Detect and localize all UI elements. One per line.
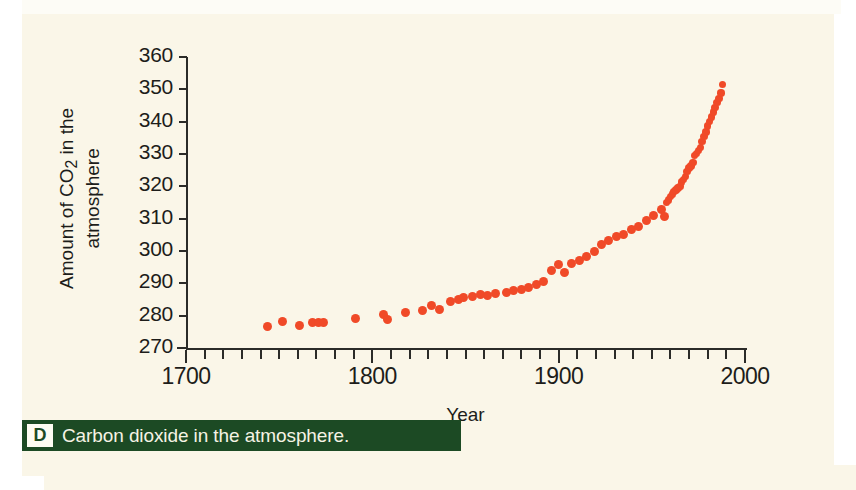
x-tick-label-1700: 1700 [146, 363, 226, 390]
x-tick-1820 [409, 350, 411, 359]
x-tick-label-2000: 2000 [705, 363, 785, 390]
data-point [634, 222, 643, 231]
data-point [401, 308, 410, 317]
data-point [295, 321, 304, 330]
y-tick-label-350: 350 [103, 75, 173, 99]
caption-text: Carbon dioxide in the atmosphere. [62, 425, 349, 447]
y-axis-title-line-2: atmosphere [82, 148, 103, 248]
x-tick-1840 [446, 350, 448, 359]
x-tick-2000 [744, 350, 746, 363]
x-tick-1880 [520, 350, 522, 359]
x-tick-1810 [390, 350, 392, 359]
y-tick-270 [177, 347, 187, 349]
x-tick-1940 [632, 350, 634, 359]
data-point [435, 305, 444, 314]
y-tick-300 [179, 250, 187, 252]
y-tick-label-310: 310 [103, 205, 173, 229]
caption-letter-badge: D [27, 424, 53, 447]
x-tick-1970 [688, 350, 690, 359]
y-tick-310 [179, 218, 187, 220]
data-point [418, 306, 427, 315]
y-tick-label-270: 270 [103, 334, 173, 358]
y-tick-label-290: 290 [103, 269, 173, 293]
data-point [278, 317, 287, 326]
y-tick-label-300: 300 [103, 237, 173, 261]
co2-scatter-chart: Amount of CO2 in the atmosphere 27028029… [22, 14, 834, 414]
y-tick-360 [179, 56, 187, 58]
figure-bottom-strip [44, 465, 856, 490]
x-tick-1830 [427, 350, 429, 359]
y-axis-title-line-1: Amount of CO2 in the [56, 108, 77, 289]
x-tick-1920 [595, 350, 597, 359]
x-tick-1710 [204, 350, 206, 359]
figure-panel: Amount of CO2 in the atmosphere 27028029… [22, 14, 834, 476]
y-tick-label-320: 320 [103, 172, 173, 196]
data-point [660, 212, 669, 221]
x-tick-1760 [297, 350, 299, 359]
y-tick-350 [179, 88, 187, 90]
x-tick-1860 [483, 350, 485, 359]
x-tick-1930 [614, 350, 616, 359]
y-tick-label-360: 360 [103, 43, 173, 67]
x-tick-1980 [707, 350, 709, 359]
y-tick-label-340: 340 [103, 108, 173, 132]
data-point [351, 314, 360, 323]
page-left-margin [0, 0, 22, 484]
data-point [263, 322, 272, 331]
page-top-margin [0, 0, 841, 14]
x-tick-1750 [278, 350, 280, 359]
data-point [649, 211, 658, 220]
data-point [717, 89, 725, 97]
x-tick-1910 [576, 350, 578, 359]
y-tick-320 [179, 185, 187, 187]
x-tick-1990 [725, 350, 727, 359]
x-tick-1870 [502, 350, 504, 359]
x-tick-1740 [260, 350, 262, 359]
x-tick-label-1800: 1800 [332, 363, 412, 390]
data-point [689, 159, 697, 167]
y-tick-label-280: 280 [103, 302, 173, 326]
x-tick-1890 [539, 350, 541, 359]
data-point [590, 247, 599, 256]
x-tick-1900 [558, 350, 560, 363]
data-point [719, 81, 727, 89]
x-tick-label-1900: 1900 [519, 363, 599, 390]
plot-area: 270280290300310320330340350360 170018001… [186, 57, 745, 348]
x-tick-1790 [353, 350, 355, 359]
data-point [319, 318, 328, 327]
data-point [459, 293, 468, 302]
data-point [383, 315, 392, 324]
x-tick-1770 [315, 350, 317, 359]
x-tick-1780 [334, 350, 336, 359]
x-tick-1700 [185, 350, 187, 363]
y-tick-280 [179, 315, 187, 317]
y-axis-line [186, 57, 188, 350]
x-tick-1850 [465, 350, 467, 359]
x-axis-line [186, 348, 747, 350]
y-axis-title: Amount of CO2 in the atmosphere [56, 78, 105, 318]
y-tick-290 [179, 282, 187, 284]
y-tick-label-330: 330 [103, 140, 173, 164]
x-tick-1720 [222, 350, 224, 359]
x-tick-1950 [651, 350, 653, 359]
data-point [539, 277, 548, 286]
x-tick-1960 [669, 350, 671, 359]
x-tick-1800 [371, 350, 373, 363]
figure-caption-bar: D Carbon dioxide in the atmosphere. [22, 420, 461, 451]
y-tick-340 [179, 121, 187, 123]
data-point [491, 289, 500, 298]
x-tick-1730 [241, 350, 243, 359]
data-point [560, 268, 569, 277]
y-tick-330 [179, 153, 187, 155]
